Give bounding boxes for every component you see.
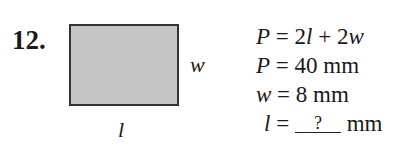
- length-label: l: [118, 117, 124, 143]
- width-label: w: [190, 52, 205, 78]
- equation-width-value: w = 8 mm: [256, 80, 382, 109]
- problem-number: 12.: [12, 25, 46, 56]
- equation-perimeter-value: P = 40 mm: [256, 51, 382, 80]
- equations: P = 2l + 2w P = 40 mm w = 8 mm l = ? mm: [256, 22, 382, 138]
- equation-perimeter-formula: P = 2l + 2w: [256, 22, 382, 51]
- rectangle-figure: [69, 24, 179, 106]
- equation-length-unknown: l = ? mm: [256, 109, 382, 138]
- answer-blank[interactable]: ?: [295, 114, 341, 133]
